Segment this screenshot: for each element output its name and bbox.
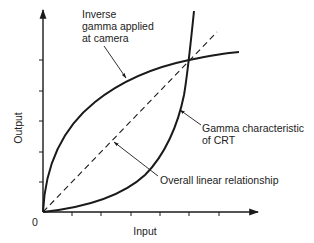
gamma-crt-label-line1: Gamma characteristic bbox=[202, 122, 304, 134]
inverse-gamma-label-line1: Inverse bbox=[82, 8, 117, 20]
inverse-gamma-leader bbox=[104, 46, 126, 78]
y-axis bbox=[39, 10, 43, 212]
gamma-crt-label-line2: of CRT bbox=[202, 134, 236, 146]
inverse-gamma-annotation: Inverse gamma applied at camera bbox=[82, 8, 154, 44]
linear-leader bbox=[114, 142, 158, 176]
gamma-crt-leader bbox=[180, 110, 201, 125]
linear-label: Overall linear relationship bbox=[160, 174, 279, 186]
inverse-gamma-label-line2: gamma applied bbox=[82, 20, 154, 32]
x-axis bbox=[43, 212, 258, 216]
x-axis-label: Input bbox=[133, 225, 156, 237]
gamma-crt-annotation: Gamma characteristic of CRT bbox=[202, 122, 304, 146]
origin-label: 0 bbox=[32, 216, 38, 228]
gamma-correction-diagram: Inverse gamma applied at camera Gamma ch… bbox=[0, 0, 314, 243]
y-axis-label: Output bbox=[12, 112, 24, 144]
inverse-gamma-label-line3: at camera bbox=[82, 32, 129, 44]
